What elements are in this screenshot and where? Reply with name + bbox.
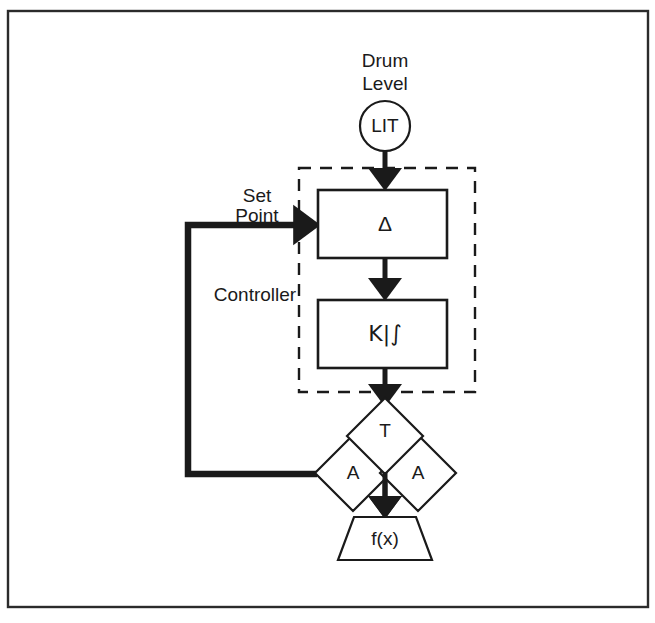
summer-label: Δ bbox=[378, 212, 392, 235]
feedback-path bbox=[188, 225, 317, 474]
control-loop-diagram: LIT Δ K|∫ A A T f(x) Drum Level Set Poin… bbox=[0, 0, 655, 623]
diamond-left-label: A bbox=[347, 462, 360, 483]
controller-box-label: K|∫ bbox=[368, 321, 401, 347]
controller-group-label: Controller bbox=[214, 284, 297, 305]
drum-level-label-line2: Level bbox=[362, 73, 407, 94]
function-block-label: f(x) bbox=[371, 528, 398, 549]
transmitter-label: LIT bbox=[371, 115, 399, 136]
set-point-label-line2: Point bbox=[235, 205, 279, 226]
set-point-label-line1: Set bbox=[243, 185, 272, 206]
figure-root: LIT Δ K|∫ A A T f(x) Drum Level Set Poin… bbox=[0, 0, 655, 623]
diamond-right-label: A bbox=[412, 462, 425, 483]
drum-level-label-line1: Drum bbox=[362, 50, 408, 71]
diamond-top-label: T bbox=[379, 420, 391, 441]
